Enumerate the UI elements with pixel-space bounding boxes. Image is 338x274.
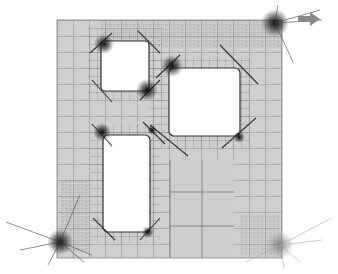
lower-left-hole [103,135,150,232]
right-hole [169,68,240,136]
mesh-diagram [0,0,338,274]
arrow-icon [298,12,320,26]
